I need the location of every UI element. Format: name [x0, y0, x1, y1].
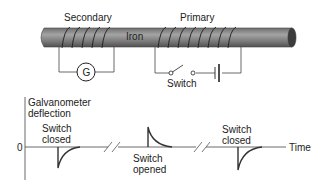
y-axis-label-line1: Galvanometer [28, 97, 91, 108]
event-3-label-line1: Switch [222, 124, 251, 135]
primary-label: Primary [180, 12, 214, 23]
switch-label: Switch [167, 78, 196, 89]
event-1-label-line2: closed [42, 134, 71, 145]
deflection-graph: Galvanometer deflection 0 Time Switch cl… [17, 97, 311, 180]
rod-end-face [288, 28, 296, 47]
pulse-opened [148, 127, 172, 147]
secondary-label: Secondary [64, 12, 112, 23]
induction-diagram: Secondary Primary Iron G Switch Galvanom… [0, 0, 321, 192]
primary-circuit [155, 47, 241, 73]
pulse-closed-2 [238, 147, 262, 170]
event-2-label-line2: opened [133, 164, 166, 175]
event-3-label-line2: closed [222, 135, 251, 146]
y-axis-label-line2: deflection [28, 108, 71, 119]
iron-label: Iron [126, 31, 143, 42]
event-2-label-line1: Switch [133, 153, 162, 164]
event-1-label-line1: Switch [42, 123, 71, 134]
galvanometer-label: G [83, 67, 91, 78]
x-axis-label: Time [289, 142, 311, 153]
pulse-closed-1 [58, 147, 80, 168]
zero-label: 0 [17, 142, 23, 153]
battery-icon [215, 64, 219, 82]
switch-icon [169, 65, 195, 75]
